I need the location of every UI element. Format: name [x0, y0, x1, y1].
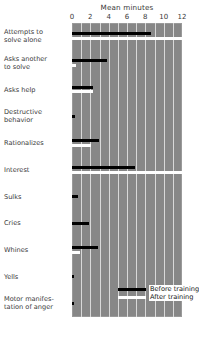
y-axis-label-line: Whines — [4, 246, 70, 254]
y-axis-label-line: Cries — [4, 219, 70, 227]
bar-before-training — [72, 246, 98, 249]
y-axis-label-attempts-to-solve-alone: Attempts tosolve alone — [4, 28, 70, 44]
y-axis-label-destructive-behavior: Destructivebehavior — [4, 108, 70, 124]
bar-before-training — [72, 139, 99, 142]
chart-legend: Before training After training — [118, 285, 196, 303]
bar-before-training — [72, 302, 74, 305]
horizontal-bar-chart: Mean minutes 024681012 Attempts tosolve … — [0, 0, 199, 341]
y-axis-label-asks-help: Asks help — [4, 86, 70, 94]
y-axis-label-line: Interest — [4, 166, 70, 174]
legend-swatch-before-icon — [118, 288, 146, 291]
chart-title: Mean minutes — [72, 3, 182, 12]
x-tick-label-2: 2 — [88, 13, 92, 21]
y-axis-label-yells: Yells — [4, 273, 70, 281]
y-axis-label-motor-manifestation-of-anger: Motor manifes-tation of anger — [4, 295, 70, 311]
y-axis-label-sulks: Sulks — [4, 193, 70, 201]
x-tick-label-6: 6 — [125, 13, 129, 21]
y-axis-label-line: to solve — [4, 63, 70, 71]
x-tick-label-12: 12 — [178, 13, 187, 21]
bar-before-training — [72, 195, 78, 198]
y-axis-label-line: Yells — [4, 273, 70, 281]
y-axis-label-line: Attempts to — [4, 28, 70, 36]
bar-after-training — [72, 90, 93, 93]
y-axis-label-line: solve alone — [4, 36, 70, 44]
bar-before-training — [72, 86, 93, 89]
y-axis-label-cries: Cries — [4, 219, 70, 227]
x-tick-label-4: 4 — [106, 13, 110, 21]
y-axis-label-line: Rationalizes — [4, 139, 70, 147]
y-axis-label-line: Asks another — [4, 55, 70, 63]
bar-before-training — [72, 32, 151, 35]
x-tick-label-8: 8 — [143, 13, 147, 21]
bar-after-training — [72, 144, 91, 147]
bar-after-training — [72, 37, 182, 40]
y-axis-label-whines: Whines — [4, 246, 70, 254]
x-axis-tick-labels: 024681012 — [72, 13, 182, 23]
y-axis-label-line: Asks help — [4, 86, 70, 94]
bar-before-training — [72, 166, 135, 169]
y-axis-label-line: tation of anger — [4, 303, 70, 311]
y-axis-label-interest: Interest — [4, 166, 70, 174]
bar-before-training — [72, 222, 89, 225]
bar-after-training — [72, 64, 76, 67]
bar-after-training — [72, 251, 80, 254]
y-axis-label-asks-another-to-solve: Asks anotherto solve — [4, 55, 70, 71]
bar-after-training — [72, 171, 182, 174]
y-axis-label-rationalizes: Rationalizes — [4, 139, 70, 147]
y-axis-label-line: Motor manifes- — [4, 295, 70, 303]
plot-area — [72, 23, 182, 317]
legend-swatch-after-icon — [118, 296, 146, 299]
legend-label-after: After training — [149, 293, 194, 301]
legend-label-before: Before training — [149, 285, 199, 293]
bar-before-training — [72, 275, 74, 278]
x-tick-label-10: 10 — [159, 13, 168, 21]
bar-before-training — [72, 59, 107, 62]
bar-before-training — [72, 115, 75, 118]
y-axis-label-line: Sulks — [4, 193, 70, 201]
y-axis-label-line: Destructive — [4, 108, 70, 116]
x-tick-label-0: 0 — [70, 13, 74, 21]
y-axis-label-line: behavior — [4, 116, 70, 124]
